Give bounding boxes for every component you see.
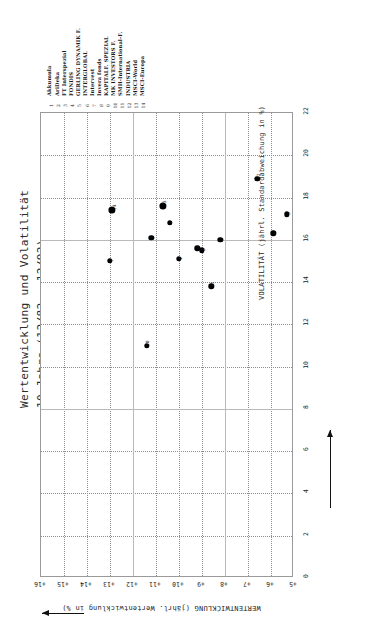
legend-number-14: 14	[141, 101, 146, 111]
gridline-volatility-10	[41, 367, 292, 368]
volatility-tick-2: 2	[302, 524, 310, 544]
legend-number-9: 9	[105, 101, 110, 111]
gridline-performance-+11	[156, 113, 157, 576]
legend-number-13: 13	[134, 101, 139, 111]
data-point-label-4: 4	[178, 257, 183, 260]
legend-label-4: FONDIS	[68, 72, 74, 96]
title-line-1: Wertentwicklung und Volatilität	[16, 158, 33, 408]
legend-number-5: 5	[77, 101, 82, 111]
legend-label-2: AriDeka	[54, 72, 60, 96]
legend-number-4: 4	[70, 101, 75, 111]
gridline-performance-+9	[202, 113, 203, 576]
legend-number-8: 8	[98, 101, 103, 111]
volatility-tick-18: 18	[302, 186, 310, 206]
data-point-label-1: 1	[109, 259, 114, 262]
legend-number-10: 10	[112, 101, 117, 111]
legend-label-13: MSCI-World	[132, 60, 138, 96]
legend-number-7: 7	[91, 101, 96, 111]
gridline-performance-+14	[87, 113, 88, 576]
volatility-tick-16: 16	[302, 228, 310, 248]
gridline-performance-+7	[248, 113, 249, 576]
performance-tick-plus5: +5	[280, 580, 306, 588]
legend-number-11: 11	[120, 101, 125, 111]
volatility-tick-10: 10	[302, 355, 310, 375]
gridline-volatility-20	[41, 155, 292, 156]
legend-number-2: 2	[56, 101, 61, 111]
gridline-major-performance-8	[225, 113, 226, 576]
performance-axis-arrow-icon	[42, 613, 84, 614]
volatility-axis-label: VOLATILITÄT (jährl. Standardabweichung i…	[258, 0, 266, 300]
data-point-label-2: 2	[219, 238, 224, 241]
gridline-volatility-6	[41, 451, 292, 452]
data-point-label-13: 13	[162, 200, 167, 206]
gridline-performance-+10	[179, 113, 180, 576]
data-point-label-10: 10	[145, 341, 150, 347]
gridline-volatility-14	[41, 282, 292, 283]
plot-frame: 1234567891011121314	[40, 112, 293, 577]
chart-plot-area: 1234567891011121314	[40, 112, 293, 577]
legend-label-3: FT Interspezial	[61, 50, 67, 96]
performance-axis-ticks: +16+15+14+13+12+11+10+9+8+7+6+5	[40, 580, 293, 598]
volatility-tick-14: 14	[302, 270, 310, 290]
data-point-label-14: 14	[112, 205, 117, 211]
data-point-label-5: 5	[150, 236, 155, 239]
data-point-label-3: 3	[286, 212, 291, 215]
legend-label-12: INDUSTRIA	[125, 61, 131, 96]
legend-number-12: 12	[127, 101, 132, 111]
legend-number-6: 6	[84, 101, 89, 111]
performance-axis-label: WERTENTWICKLUNG (jährl. Wertentwicklung …	[62, 604, 261, 612]
gridline-volatility-12	[41, 324, 292, 325]
legend-number-3: 3	[63, 101, 68, 111]
gridline-major-volatility-8	[41, 409, 292, 410]
volatility-tick-12: 12	[302, 312, 310, 332]
legend-label-10: MK INVESTORS F.	[110, 40, 116, 96]
gridline-volatility-18	[41, 198, 292, 199]
data-point-label-11: 11	[210, 282, 215, 288]
gridline-volatility-2	[41, 536, 292, 537]
volatility-axis-arrow-icon	[330, 430, 331, 508]
volatility-tick-8: 8	[302, 397, 310, 417]
legend-label-1: Akkumula	[46, 66, 52, 96]
volatility-tick-4: 4	[302, 481, 310, 501]
gridline-performance-+13	[110, 113, 111, 576]
gridline-performance-+15	[64, 113, 65, 576]
gridline-performance-+6	[271, 113, 272, 576]
legend-label-11: SMH-International-F.	[117, 32, 123, 96]
volatility-tick-20: 20	[302, 143, 310, 163]
data-point-label-7: 7	[168, 221, 173, 224]
gridline-major-performance-12	[133, 113, 134, 576]
data-point-label-8: 8	[201, 248, 206, 251]
legend-label-9: KAPITALF. SPEZIAL	[103, 36, 109, 96]
legend-label-7: Intervest	[89, 69, 95, 96]
legend-label-14: MSCI-Europa	[139, 56, 145, 96]
data-point-label-6: 6	[272, 231, 277, 234]
gridline-volatility-4	[41, 493, 292, 494]
legend-label-6: INTERGLOBAL	[82, 51, 88, 96]
legend-label-8: Invera fonds	[96, 58, 102, 96]
gridline-major-volatility-16	[41, 240, 292, 241]
volatility-tick-6: 6	[302, 439, 310, 459]
legend-number-1: 1	[49, 101, 54, 111]
volatility-axis-ticks: 0246810121416182022	[296, 112, 318, 577]
legend: 1Akkumula2AriDeka3FT Interspezial4FONDIS…	[46, 4, 206, 108]
volatility-tick-22: 22	[302, 101, 310, 121]
data-point-label-9: 9	[196, 246, 201, 249]
legend-label-5: GERLING DYNAMIK F.	[75, 28, 81, 96]
